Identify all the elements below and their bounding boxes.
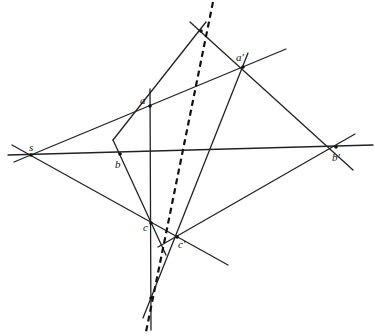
lines-layer (8, 2, 373, 332)
bc-line (113, 140, 166, 255)
point-a (148, 104, 152, 108)
label-s: s (29, 141, 33, 153)
point-c (149, 221, 153, 225)
point-p (149, 296, 153, 300)
sb-line (8, 145, 373, 155)
desargues-diagram: sabca′b′c′ (0, 0, 375, 336)
c2b2-line (158, 134, 355, 247)
label-a2: a′ (236, 51, 245, 63)
label-c2: c′ (178, 238, 186, 250)
label-c: c (143, 221, 148, 233)
point-o (199, 29, 203, 33)
point-a2 (241, 65, 245, 69)
point-b2 (334, 145, 338, 149)
vertical-ac (150, 89, 151, 330)
point-s (29, 153, 33, 157)
points-layer (29, 29, 338, 300)
point-b (118, 152, 122, 156)
ab-line (113, 22, 206, 140)
label-b: b (115, 158, 121, 170)
label-b2: b′ (332, 151, 341, 163)
label-a: a (140, 94, 146, 106)
